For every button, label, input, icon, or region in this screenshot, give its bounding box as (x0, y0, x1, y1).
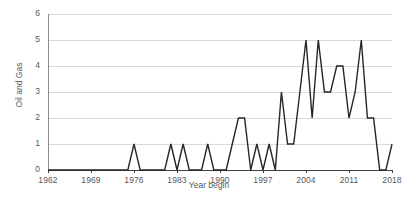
y-tick-label: 5 (24, 34, 40, 44)
chart-plot-area (0, 0, 418, 203)
axis-line-group (48, 14, 392, 173)
y-tick-label: 1 (24, 138, 40, 148)
y-axis-title: Oil and Gas (14, 40, 24, 130)
gridline-group (48, 14, 392, 170)
x-axis-title: Year begin (0, 180, 418, 190)
y-tick-label: 4 (24, 60, 40, 70)
data-line (48, 40, 392, 170)
data-series-group (48, 40, 392, 170)
y-tick-label: 0 (24, 164, 40, 174)
chart-container: 6543210 19621969197619831990199720042011… (0, 0, 418, 203)
y-tick-label: 2 (24, 112, 40, 122)
y-tick-label: 3 (24, 86, 40, 96)
y-tick-label: 6 (24, 8, 40, 18)
